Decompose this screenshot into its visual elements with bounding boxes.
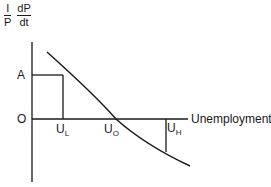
y-axis-label: I P dP dt bbox=[4, 3, 31, 28]
label-A: A bbox=[17, 69, 25, 81]
inflation-unemployment-curve bbox=[47, 52, 190, 166]
x-axis-label: Unemployment bbox=[191, 113, 271, 125]
frac1-numerator: I bbox=[6, 3, 9, 14]
label-U0: UO bbox=[104, 123, 119, 138]
phillips-curve-diagram bbox=[0, 0, 271, 187]
label-UL: UL bbox=[56, 123, 69, 138]
frac1-denominator: P bbox=[4, 17, 11, 28]
frac2-numerator: dP bbox=[17, 3, 30, 14]
label-origin: O bbox=[17, 113, 26, 125]
frac2-denominator: dt bbox=[19, 17, 28, 28]
label-UH: UH bbox=[167, 122, 181, 137]
